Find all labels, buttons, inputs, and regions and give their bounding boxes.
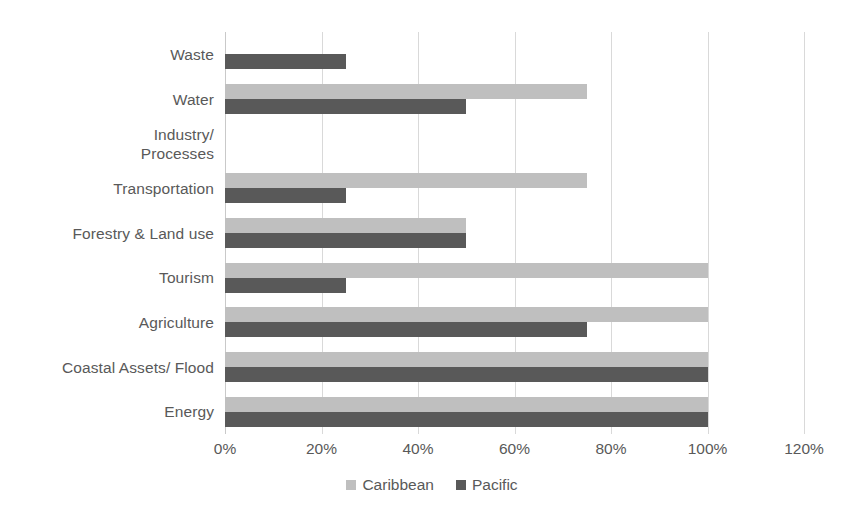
bar-caribbean (225, 307, 708, 322)
legend-label: Pacific (472, 476, 518, 494)
y-axis-label: Tourism (0, 268, 214, 287)
y-axis-labels: WasteWaterIndustry/ProcessesTransportati… (0, 32, 214, 434)
bar-pacific (225, 188, 346, 203)
bar-group (225, 389, 804, 434)
bar-group (225, 300, 804, 345)
x-axis-tick-label: 80% (595, 440, 626, 458)
bar-pacific (225, 54, 346, 69)
y-axis-label-line: Transportation (0, 179, 214, 198)
bar-pacific (225, 412, 708, 427)
bar-pacific (225, 99, 466, 114)
bar-pacific (225, 278, 346, 293)
y-axis-label-line: Agriculture (0, 313, 214, 332)
bar-group (225, 77, 804, 122)
legend-swatch-icon (456, 480, 466, 490)
y-axis-label-line: Energy (0, 402, 214, 421)
bar-caribbean (225, 218, 466, 233)
y-axis-label: Energy (0, 402, 214, 421)
bar-pacific (225, 322, 587, 337)
y-axis-label: Waste (0, 45, 214, 64)
y-axis-label-line: Tourism (0, 268, 214, 287)
x-axis-tick-label: 60% (499, 440, 530, 458)
bar-group (225, 32, 804, 77)
bar-group (225, 121, 804, 166)
x-axis-tick-label: 0% (214, 440, 236, 458)
x-axis-tick-label: 120% (784, 440, 824, 458)
y-axis-label: Forestry & Land use (0, 224, 214, 243)
bar-group (225, 255, 804, 300)
y-axis-label: Water (0, 90, 214, 109)
x-axis-tick-label: 20% (306, 440, 337, 458)
bar-pacific (225, 367, 708, 382)
x-axis-tick-labels: 0%20%40%60%80%100%120% (225, 440, 804, 464)
y-axis-label: Coastal Assets/ Flood (0, 358, 214, 377)
x-axis-tick-label: 40% (402, 440, 433, 458)
bar-caribbean (225, 397, 708, 412)
y-axis-label: Agriculture (0, 313, 214, 332)
y-axis-label-line: Processes (0, 144, 214, 163)
y-axis-label-line: Coastal Assets/ Flood (0, 358, 214, 377)
plot-area (225, 32, 804, 434)
legend-item-pacific[interactable]: Pacific (456, 476, 518, 494)
y-axis-label-line: Forestry & Land use (0, 224, 214, 243)
bar-caribbean (225, 263, 708, 278)
y-axis-label: Industry/Processes (0, 125, 214, 163)
bar-caribbean (225, 84, 587, 99)
legend-item-caribbean[interactable]: Caribbean (346, 476, 434, 494)
y-axis-label-line: Waste (0, 45, 214, 64)
legend-swatch-icon (346, 480, 356, 490)
bar-group (225, 345, 804, 390)
legend-label: Caribbean (362, 476, 434, 494)
bar-pacific (225, 233, 466, 248)
bar-caribbean (225, 352, 708, 367)
x-axis-tick-label: 100% (688, 440, 728, 458)
y-axis-label-line: Industry/ (0, 125, 214, 144)
chart-legend: CaribbeanPacific (0, 476, 864, 494)
gridline-120 (804, 32, 805, 434)
y-axis-label-line: Water (0, 90, 214, 109)
bar-chart: WasteWaterIndustry/ProcessesTransportati… (0, 0, 864, 518)
y-axis-label: Transportation (0, 179, 214, 198)
bar-caribbean (225, 173, 587, 188)
bar-group (225, 166, 804, 211)
bar-group (225, 211, 804, 256)
